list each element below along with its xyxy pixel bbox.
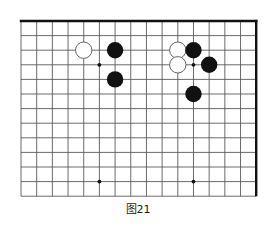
star-point xyxy=(192,63,196,67)
go-diagram-figure: 图21 xyxy=(0,0,276,229)
white-stone xyxy=(170,57,186,73)
black-stone xyxy=(107,42,123,58)
figure-background xyxy=(0,0,276,229)
black-stone xyxy=(185,86,201,102)
star-point xyxy=(98,180,102,184)
white-stone xyxy=(170,42,186,58)
black-stone xyxy=(107,71,123,87)
go-board xyxy=(0,0,276,229)
star-point xyxy=(98,63,102,67)
black-stone xyxy=(201,57,217,73)
star-point xyxy=(192,180,196,184)
white-stone xyxy=(76,42,92,58)
figure-caption: 图21 xyxy=(0,203,276,217)
black-stone xyxy=(185,42,201,58)
